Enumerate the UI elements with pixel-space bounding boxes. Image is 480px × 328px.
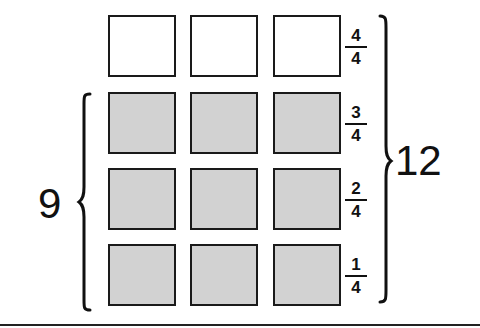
square-r3-c2 <box>190 168 258 230</box>
left-brace-icon <box>78 92 98 312</box>
square-r2-c2 <box>190 92 258 154</box>
right-brace-label: 12 <box>395 140 442 182</box>
left-brace-label: 9 <box>38 183 61 225</box>
fraction-numerator: 2 <box>345 180 367 197</box>
square-r1-c3 <box>273 15 341 77</box>
fraction-bar <box>345 275 367 277</box>
square-r2-c1 <box>108 92 176 154</box>
fraction-bar <box>345 46 367 48</box>
fraction-row4: 1 4 <box>345 256 367 296</box>
fraction-row2: 3 4 <box>345 104 367 144</box>
fraction-denominator: 4 <box>345 279 367 296</box>
square-r4-c3 <box>273 244 341 306</box>
fraction-numerator: 4 <box>345 27 367 44</box>
square-r3-c1 <box>108 168 176 230</box>
fraction-numerator: 3 <box>345 104 367 121</box>
square-r1-c1 <box>108 15 176 77</box>
fraction-denominator: 4 <box>345 203 367 220</box>
bottom-divider <box>0 324 480 326</box>
fraction-bar <box>345 123 367 125</box>
square-r4-c2 <box>190 244 258 306</box>
fraction-denominator: 4 <box>345 50 367 67</box>
square-r1-c2 <box>190 15 258 77</box>
square-r3-c3 <box>273 168 341 230</box>
fraction-numerator: 1 <box>345 256 367 273</box>
fraction-row3: 2 4 <box>345 180 367 220</box>
fraction-bar <box>345 199 367 201</box>
fraction-denominator: 4 <box>345 127 367 144</box>
square-r2-c3 <box>273 92 341 154</box>
fraction-row1: 4 4 <box>345 27 367 67</box>
square-r4-c1 <box>108 244 176 306</box>
